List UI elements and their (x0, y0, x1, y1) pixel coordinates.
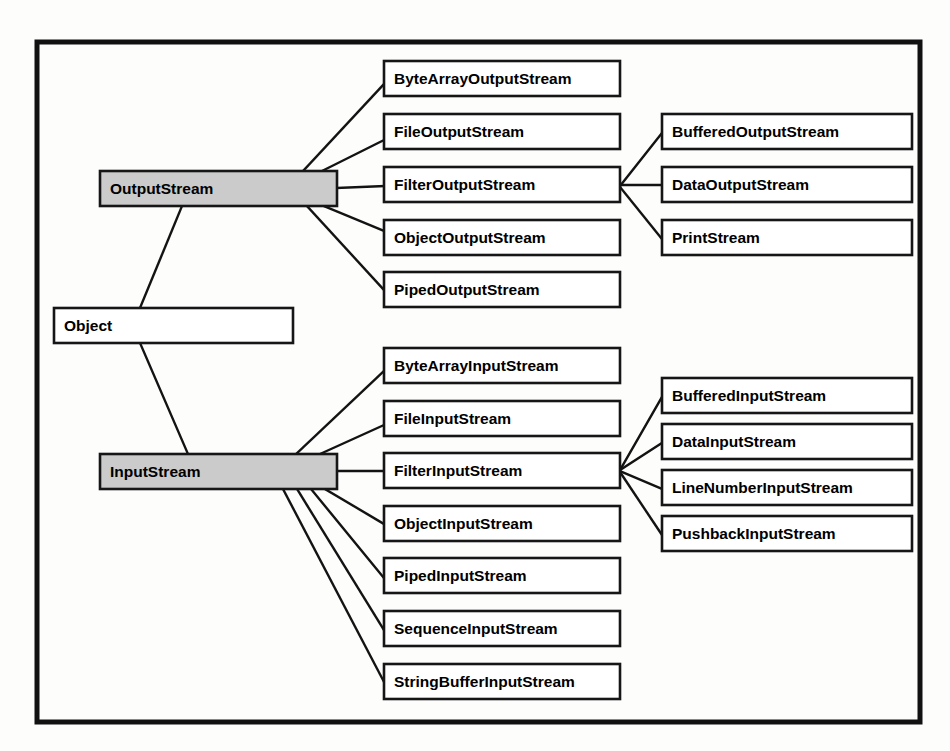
class-node-pushback_input_stream[interactable]: PushbackInputStream (662, 516, 912, 551)
class-node-label-string_buffer_input_stream: StringBufferInputStream (394, 673, 575, 690)
class-node-label-byte_array_input_stream: ByteArrayInputStream (394, 357, 559, 374)
class-node-label-buffered_input_stream: BufferedInputStream (672, 387, 826, 404)
edge-filter_output_stream-buffered_output_stream (620, 133, 662, 186)
edge-input_stream-byte_array_input_stream (296, 371, 384, 454)
class-node-label-data_input_stream: DataInputStream (672, 433, 796, 450)
class-node-label-object: Object (64, 317, 112, 334)
class-node-data_input_stream[interactable]: DataInputStream (662, 424, 912, 459)
edge-filter_output_stream-print_stream (620, 187, 662, 239)
class-node-piped_input_stream[interactable]: PipedInputStream (384, 558, 620, 593)
class-node-sequence_input_stream[interactable]: SequenceInputStream (384, 611, 620, 646)
class-node-label-data_output_stream: DataOutputStream (672, 176, 809, 193)
class-node-print_stream[interactable]: PrintStream (662, 220, 912, 255)
edge-filter_input_stream-pushback_input_stream (620, 472, 662, 535)
class-node-object_output_stream[interactable]: ObjectOutputStream (384, 220, 620, 255)
class-node-object_input_stream[interactable]: ObjectInputStream (384, 506, 620, 541)
class-node-string_buffer_input_stream[interactable]: StringBufferInputStream (384, 664, 620, 699)
edge-output_stream-object_output_stream (324, 206, 384, 231)
edge-object-input_stream (140, 343, 188, 454)
class-node-object[interactable]: Object (54, 308, 293, 343)
class-node-label-piped_input_stream: PipedInputStream (394, 567, 527, 584)
edge-output_stream-filter_output_stream (337, 186, 384, 188)
diagram-canvas: ObjectOutputStreamInputStreamByteArrayOu… (0, 0, 950, 751)
edge-object-output_stream (140, 206, 182, 308)
class-node-label-file_output_stream: FileOutputStream (394, 123, 524, 140)
edge-output_stream-file_output_stream (322, 140, 384, 171)
class-node-file_input_stream[interactable]: FileInputStream (384, 401, 620, 436)
class-node-label-object_output_stream: ObjectOutputStream (394, 229, 546, 246)
class-node-piped_output_stream[interactable]: PipedOutputStream (384, 272, 620, 307)
class-node-label-output_stream: OutputStream (110, 180, 213, 197)
class-node-label-sequence_input_stream: SequenceInputStream (394, 620, 558, 637)
class-node-label-object_input_stream: ObjectInputStream (394, 515, 533, 532)
class-hierarchy-diagram: ObjectOutputStreamInputStreamByteArrayOu… (0, 0, 950, 751)
class-node-filter_output_stream[interactable]: FilterOutputStream (384, 167, 620, 202)
class-node-byte_array_output_stream[interactable]: ByteArrayOutputStream (384, 61, 620, 96)
class-node-output_stream[interactable]: OutputStream (100, 171, 337, 206)
class-node-data_output_stream[interactable]: DataOutputStream (662, 167, 912, 202)
edge-input_stream-file_input_stream (320, 425, 384, 454)
class-node-label-file_input_stream: FileInputStream (394, 410, 511, 427)
class-node-byte_array_input_stream[interactable]: ByteArrayInputStream (384, 348, 620, 383)
class-node-line_number_input_stream[interactable]: LineNumberInputStream (662, 470, 912, 505)
class-node-label-input_stream: InputStream (110, 463, 200, 480)
edge-output_stream-piped_output_stream (307, 206, 384, 290)
class-node-filter_input_stream[interactable]: FilterInputStream (384, 453, 620, 488)
class-node-label-byte_array_output_stream: ByteArrayOutputStream (394, 70, 571, 87)
class-node-input_stream[interactable]: InputStream (100, 454, 337, 489)
class-node-label-buffered_output_stream: BufferedOutputStream (672, 123, 839, 140)
class-node-label-filter_output_stream: FilterOutputStream (394, 176, 535, 193)
class-node-buffered_output_stream[interactable]: BufferedOutputStream (662, 114, 912, 149)
edge-filter_input_stream-buffered_input_stream (620, 397, 662, 470)
class-node-buffered_input_stream[interactable]: BufferedInputStream (662, 378, 912, 413)
edge-filter_input_stream-data_input_stream (620, 443, 662, 470)
class-node-label-filter_input_stream: FilterInputStream (394, 462, 522, 479)
class-node-file_output_stream[interactable]: FileOutputStream (384, 114, 620, 149)
edge-input_stream-sequence_input_stream (297, 489, 384, 630)
class-node-label-print_stream: PrintStream (672, 229, 760, 246)
node-layer: ObjectOutputStreamInputStreamByteArrayOu… (54, 61, 912, 699)
class-node-label-piped_output_stream: PipedOutputStream (394, 281, 540, 298)
edge-output_stream-byte_array_output_stream (303, 84, 384, 171)
class-node-label-pushback_input_stream: PushbackInputStream (672, 525, 836, 542)
class-node-label-line_number_input_stream: LineNumberInputStream (672, 479, 853, 496)
